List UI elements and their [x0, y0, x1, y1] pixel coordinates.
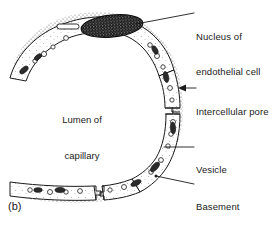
vesicle: [48, 190, 53, 195]
caveola-tubule: [57, 24, 79, 29]
vesicle: [159, 158, 164, 163]
label-pore-line1: Intercellular pore: [196, 106, 269, 118]
leader-line-nucleus: [136, 13, 194, 24]
vesicle: [51, 45, 55, 49]
organelle: [55, 188, 65, 193]
vesicle: [168, 86, 173, 91]
vesicle: [64, 36, 69, 41]
caveola: [57, 24, 79, 29]
vesicle: [41, 51, 46, 56]
label-basement-line1: Basement: [196, 201, 242, 213]
lumen-label: Lumen of capillary: [36, 90, 128, 186]
lumen-label-line2: capillary: [36, 150, 128, 162]
label-nucleus-line2: endothelial cell: [196, 66, 260, 78]
label-nucleus-line1: Nucleus of: [196, 31, 260, 43]
leader-dot-basement: [155, 175, 158, 178]
leader-line-basement: [156, 176, 194, 184]
vesicle: [28, 188, 33, 193]
capillary-diagram-figure: Lumen of capillary Nucleus of endothelia…: [0, 0, 279, 230]
panel-letter: (b): [8, 200, 21, 212]
vesicle: [148, 43, 153, 48]
label-intercellular-pore: Intercellular pore: [196, 83, 269, 141]
label-basement-membrane: Basement membrane: [196, 178, 242, 230]
vesicle: [78, 189, 83, 194]
organelle: [170, 122, 176, 134]
vesicle: [108, 188, 112, 192]
vesicle: [170, 98, 174, 102]
organelle: [34, 188, 42, 193]
label-vesicle-line1: Vesicle: [196, 164, 227, 176]
lumen-label-line1: Lumen of: [36, 114, 128, 126]
vesicle: [166, 144, 170, 148]
vesicle: [161, 65, 165, 69]
